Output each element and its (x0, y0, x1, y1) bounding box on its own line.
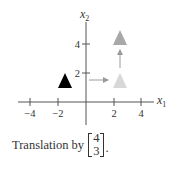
y-tick-label: 4 (75, 39, 81, 50)
original-triangle (58, 73, 72, 88)
x1-axis-label: x1 (156, 93, 166, 109)
y-tick-label: 2 (75, 68, 80, 79)
caption-text: Translation by (12, 138, 84, 153)
translation-vector: 4 3 (88, 132, 104, 158)
x2-axis-label: x2 (79, 7, 89, 23)
x-tick-label: −4 (24, 108, 36, 119)
caption-period: . (105, 141, 108, 156)
caption: Translation by 4 3 . (12, 129, 109, 161)
translation-diagram: −4 −2 2 4 4 2 x1 x2 (0, 0, 179, 128)
x-tick-label: 2 (111, 108, 116, 119)
translated-triangle (113, 30, 127, 45)
x-tick-label: −2 (52, 108, 63, 119)
x-tick-label: 4 (138, 108, 144, 119)
vector-bottom: 3 (93, 145, 99, 158)
intermediate-triangle (113, 73, 127, 88)
